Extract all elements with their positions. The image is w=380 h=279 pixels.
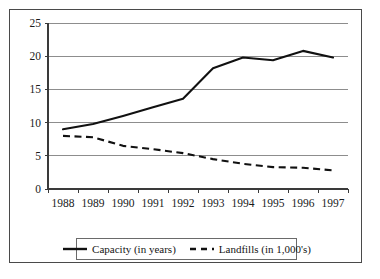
x-axis-tick-labels: 1988198919901991199219931994199519961997	[52, 197, 345, 209]
x-tick-label: 1990	[112, 197, 135, 209]
series-capacity-line	[63, 51, 333, 129]
legend-item-capacity: Capacity (in years)	[62, 244, 176, 255]
x-tick-label: 1995	[262, 197, 285, 209]
y-tick-label: 15	[30, 83, 42, 95]
y-tick-label: 25	[30, 17, 42, 29]
x-tick-label: 1992	[172, 197, 195, 209]
y-tick-label: 0	[35, 183, 41, 195]
figure-frame: 0510152025 19881989199019911992199319941…	[9, 9, 362, 263]
x-axis	[48, 189, 348, 193]
solid-line-swatch-icon	[62, 244, 88, 254]
x-tick-label: 1996	[292, 197, 315, 209]
y-tick-label: 20	[30, 50, 42, 62]
x-tick-label: 1988	[52, 197, 75, 209]
legend-item-landfills: Landfills (in 1,000's)	[189, 244, 311, 255]
legend-label-capacity: Capacity (in years)	[92, 244, 176, 255]
dashed-line-swatch-icon	[189, 244, 215, 254]
series-landfills-line	[63, 136, 333, 171]
x-tick-label: 1993	[202, 197, 225, 209]
chart-legend: Capacity (in years) Landfills (in 1,000'…	[76, 238, 297, 260]
legend-label-landfills: Landfills (in 1,000's)	[219, 244, 311, 255]
y-tick-label: 10	[30, 117, 42, 129]
x-tick-label: 1997	[322, 197, 345, 209]
line-chart: 0510152025 19881989199019911992199319941…	[10, 10, 363, 264]
y-axis-tick-labels: 0510152025	[30, 17, 49, 195]
y-tick-label: 5	[35, 150, 41, 162]
x-tick-label: 1994	[232, 197, 255, 209]
gridlines	[48, 23, 348, 189]
x-tick-label: 1989	[82, 197, 105, 209]
x-tick-label: 1991	[142, 197, 165, 209]
